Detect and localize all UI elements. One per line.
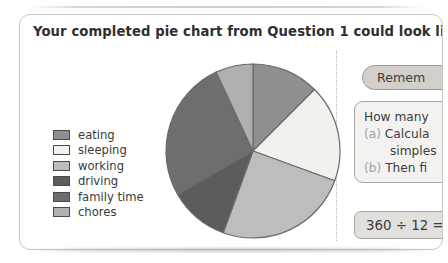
question-marker-b: (b)	[364, 161, 381, 175]
legend-label-chores: chores	[78, 205, 117, 219]
legend-swatch-sleeping	[53, 145, 70, 155]
question-line-a-cont: simples	[364, 143, 443, 160]
card-shadow	[24, 248, 438, 252]
chart-legend: eating sleeping working driving family t…	[53, 127, 163, 220]
pie-slice-group	[166, 64, 340, 238]
legend-swatch-chores	[53, 207, 70, 217]
legend-item-eating: eating	[53, 127, 163, 143]
question-line-intro: How many	[364, 109, 443, 126]
pie-chart-svg	[163, 61, 343, 241]
legend-label-driving: driving	[78, 174, 118, 188]
legend-label-family-time: family time	[78, 190, 144, 204]
legend-item-chores: chores	[53, 205, 163, 221]
chart-area: eating sleeping working driving family t…	[20, 41, 336, 249]
legend-swatch-eating	[53, 130, 70, 140]
calculation-box: 360 ÷ 12 =	[354, 211, 443, 239]
legend-label-eating: eating	[78, 128, 115, 142]
question-text-a: Calcula	[385, 127, 430, 141]
remember-badge: Remem	[362, 65, 443, 90]
legend-swatch-working	[53, 161, 70, 171]
question-panel: How many (a) Calcula simples (b) Then fi	[354, 101, 443, 183]
remember-label: Remem	[377, 70, 425, 85]
legend-label-working: working	[78, 159, 124, 173]
activity-card: Your completed pie chart from Question 1…	[19, 14, 443, 250]
legend-item-working: working	[53, 158, 163, 174]
legend-item-driving: driving	[53, 174, 163, 190]
legend-label-sleeping: sleeping	[78, 143, 127, 157]
top-divider-rule	[30, 6, 424, 8]
legend-swatch-driving	[53, 176, 70, 186]
legend-item-sleeping: sleeping	[53, 143, 163, 159]
pie-chart	[163, 61, 343, 241]
question-text-b: Then fi	[385, 161, 427, 175]
calculation-text: 360 ÷ 12 =	[366, 218, 443, 233]
question-line-a: (a) Calcula	[364, 126, 443, 143]
page-title: Your completed pie chart from Question 1…	[33, 24, 443, 39]
legend-item-family-time: family time	[53, 189, 163, 205]
question-marker-a: (a)	[364, 127, 381, 141]
question-line-b: (b) Then fi	[364, 160, 443, 177]
legend-swatch-family-time	[53, 192, 70, 202]
